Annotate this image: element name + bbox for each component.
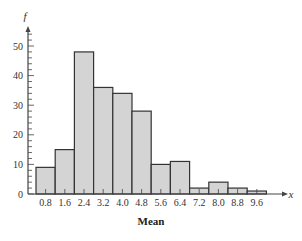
y-tick-label: 20 — [13, 129, 23, 140]
x-tick-label: 2.4 — [78, 197, 91, 208]
y-tick-label: 10 — [13, 159, 23, 170]
x-tick-label: 8.0 — [212, 197, 225, 208]
x-tick-label: 4.8 — [135, 197, 148, 208]
histogram-bar — [94, 87, 113, 194]
x-tick-label: 4.0 — [116, 197, 129, 208]
y-axis-ticks: 01020304050 — [13, 34, 34, 199]
y-tick-label: 50 — [13, 41, 23, 52]
x-tick-label: 3.2 — [97, 197, 110, 208]
histogram-bar — [113, 93, 132, 194]
x-tick-label: 7.2 — [193, 197, 206, 208]
y-axis-symbol: f — [23, 10, 28, 22]
x-tick-label: 6.4 — [174, 197, 187, 208]
y-tick-label: 40 — [13, 70, 23, 81]
histogram-bar — [55, 150, 74, 194]
x-tick-label: 9.6 — [251, 197, 264, 208]
x-tick-label: 1.6 — [59, 197, 72, 208]
y-tick-label: 0 — [18, 189, 23, 200]
x-axis-title: Mean — [138, 215, 165, 227]
y-axis-arrow-icon — [26, 26, 31, 32]
histogram-bar — [132, 111, 151, 194]
x-axis-arrow-icon — [282, 192, 288, 197]
x-tick-label: 8.8 — [231, 197, 244, 208]
y-tick-label: 30 — [13, 100, 23, 111]
x-axis-symbol: x — [288, 188, 294, 200]
x-tick-label: 5.6 — [155, 197, 168, 208]
histogram-bar — [74, 52, 93, 194]
x-tick-label: 0.8 — [39, 197, 52, 208]
histogram-bars — [36, 52, 266, 194]
histogram-chart: 01020304050 0.81.62.43.24.04.85.66.47.28… — [0, 0, 302, 241]
